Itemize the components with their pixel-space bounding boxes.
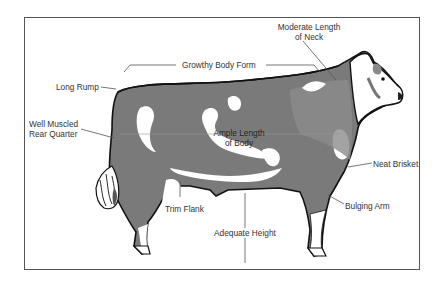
label-bulging-arm: Bulging Arm [345, 201, 390, 211]
label-ample-length-body: Ample Length of Body [204, 128, 274, 148]
label-rear-line1: Well Muscled [29, 119, 78, 129]
label-rear-quarter: Well Muscled Rear Quarter [29, 119, 78, 139]
label-trim-flank: Trim Flank [165, 204, 204, 214]
label-body-line1: Ample Length [204, 128, 274, 138]
label-moderate-neck: Moderate Length of Neck [269, 22, 349, 42]
label-neat-brisket: Neat Brisket [373, 159, 418, 169]
label-rear-line2: Rear Quarter [29, 129, 78, 139]
label-adequate-height: Adequate Height [213, 228, 277, 238]
label-growthy-body-form: Growthy Body Form [182, 60, 256, 70]
label-long-rump: Long Rump [56, 82, 99, 92]
label-neck-line2: of Neck [269, 32, 349, 42]
label-neck-line1: Moderate Length [269, 22, 349, 32]
steer-eye [381, 77, 385, 81]
label-body-line2: of Body [204, 138, 274, 148]
